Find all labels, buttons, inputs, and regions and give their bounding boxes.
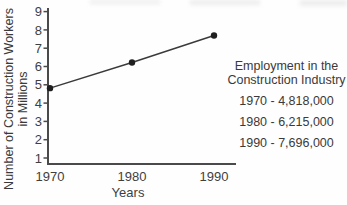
figure: Number of Construction Workers in Millio… bbox=[0, 0, 347, 205]
y-tick-label: 9 bbox=[35, 4, 42, 19]
y-tick-label: 1 bbox=[35, 151, 42, 166]
x-tick-label: 1980 bbox=[118, 169, 147, 184]
y-tick-label: 6 bbox=[35, 59, 42, 74]
y-tick-label: 5 bbox=[35, 77, 42, 92]
y-tick-label: 4 bbox=[35, 96, 42, 111]
legend-title-line1: Employment in the bbox=[226, 60, 347, 74]
x-tick-label: 1990 bbox=[200, 169, 229, 184]
y-tick-label: 7 bbox=[35, 41, 42, 56]
data-point-1990 bbox=[211, 32, 217, 38]
x-tick-label: 1970 bbox=[36, 169, 65, 184]
data-point-1980 bbox=[129, 59, 135, 65]
legend-block: Employment in the Construction Industry … bbox=[226, 60, 347, 150]
legend-title-line2: Construction Industry bbox=[226, 74, 347, 88]
x-axis-title: Years bbox=[96, 185, 160, 200]
y-tick-label: 3 bbox=[35, 114, 42, 129]
legend-item: 1980 - 6,215,000 bbox=[226, 116, 347, 130]
y-tick-label: 2 bbox=[35, 132, 42, 147]
data-point-1970 bbox=[47, 85, 53, 91]
legend-item: 1990 - 7,696,000 bbox=[226, 137, 347, 151]
y-tick-label: 8 bbox=[35, 23, 42, 38]
legend-item: 1970 - 4,818,000 bbox=[226, 95, 347, 109]
